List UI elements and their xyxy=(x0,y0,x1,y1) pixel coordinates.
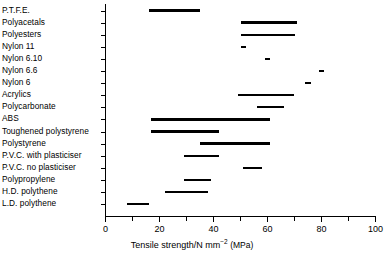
y-axis-tick xyxy=(101,204,105,205)
range-bar xyxy=(241,46,246,48)
range-bar xyxy=(165,191,208,193)
x-axis-title: Tensile strength/N mm−2 (MPa) xyxy=(0,238,384,250)
y-axis-line xyxy=(105,4,106,216)
tensile-strength-range-chart: P.T.F.E.PolyacetalsPolyestersNylon 11Nyl… xyxy=(0,0,384,258)
y-axis-tick xyxy=(101,71,105,72)
y-axis-tick xyxy=(101,156,105,157)
range-bar xyxy=(184,179,211,181)
y-axis-tick xyxy=(101,180,105,181)
x-axis-title-unit: (MPa) xyxy=(230,240,253,250)
y-axis-tick xyxy=(101,35,105,36)
range-bar xyxy=(149,9,200,11)
x-axis-tick-label: 60 xyxy=(262,224,272,234)
x-axis-minor-tick xyxy=(132,217,133,221)
range-bar xyxy=(319,70,324,72)
y-axis-tick xyxy=(101,59,105,60)
range-bar xyxy=(127,203,149,205)
x-axis-tick-label: 40 xyxy=(208,224,218,234)
x-axis-major-tick xyxy=(375,217,376,222)
x-axis-tick-label: 20 xyxy=(154,224,164,234)
range-bar xyxy=(257,106,284,108)
x-axis-major-tick xyxy=(267,217,268,222)
range-bar xyxy=(241,21,298,23)
y-axis-tick xyxy=(101,47,105,48)
x-axis-minor-tick xyxy=(240,217,241,221)
x-axis-minor-tick xyxy=(186,217,187,221)
y-axis-tick xyxy=(101,95,105,96)
range-bar xyxy=(265,58,270,60)
y-axis-tick xyxy=(101,119,105,120)
x-axis-tick-label: 0 xyxy=(103,224,108,234)
x-axis-title-main: Tensile strength/N mm xyxy=(131,240,221,250)
range-bar xyxy=(200,142,270,144)
y-axis-tick xyxy=(101,11,105,12)
x-axis-minor-tick xyxy=(294,217,295,221)
x-axis-tick-label: 100 xyxy=(368,224,383,234)
y-axis-tick xyxy=(101,168,105,169)
y-axis-tick xyxy=(101,23,105,24)
y-axis-tick xyxy=(101,132,105,133)
range-bar xyxy=(151,130,219,132)
x-axis-tick-label: 80 xyxy=(316,224,326,234)
y-axis-tick xyxy=(101,144,105,145)
x-axis-major-tick xyxy=(159,217,160,222)
range-bar xyxy=(241,34,295,36)
x-axis-major-tick xyxy=(105,217,106,222)
plot-area: 020406080100 xyxy=(0,0,384,258)
x-axis-title-exponent: −2 xyxy=(220,238,227,245)
x-axis-major-tick xyxy=(213,217,214,222)
range-bar xyxy=(238,94,295,96)
x-axis-minor-tick xyxy=(348,217,349,221)
x-axis-major-tick xyxy=(321,217,322,222)
range-bar xyxy=(151,118,270,120)
range-bar xyxy=(305,82,310,84)
range-bar xyxy=(184,155,219,157)
range-bar xyxy=(243,167,262,169)
y-axis-tick xyxy=(101,83,105,84)
y-axis-tick xyxy=(101,107,105,108)
y-axis-tick xyxy=(101,192,105,193)
